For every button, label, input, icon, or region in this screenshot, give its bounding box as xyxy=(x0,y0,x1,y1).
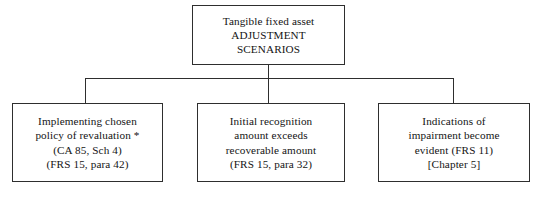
node-root-adjustment-scenarios: Tangible fixed asset ADJUSTMENT SCENARIO… xyxy=(192,5,345,65)
connector-root-stem xyxy=(268,65,269,79)
node-revaluation-line-4: (FRS 15, para 42) xyxy=(46,157,128,171)
node-root-line-2: ADJUSTMENT xyxy=(231,28,305,42)
node-implementing-chosen-policy-of-revaluation: Implementing chosen policy of revaluatio… xyxy=(12,103,163,182)
node-initial-recognition-line-4: (FRS 15, para 32) xyxy=(230,157,312,171)
connector-drop-initial-recognition xyxy=(268,78,269,103)
flowchart-diagram: Tangible fixed asset ADJUSTMENT SCENARIO… xyxy=(0,0,538,200)
node-initial-recognition-line-1: Initial recognition xyxy=(230,114,313,128)
node-revaluation-line-2: policy of revaluation * xyxy=(35,128,139,142)
node-impairment-line-2: impairment become xyxy=(408,128,499,142)
connector-drop-revaluation xyxy=(85,78,86,103)
connector-horizontal-bus xyxy=(85,78,454,79)
node-revaluation-line-1: Implementing chosen xyxy=(38,114,137,128)
node-revaluation-line-3: (CA 85, Sch 4) xyxy=(53,143,122,157)
node-initial-recognition-line-2: amount exceeds xyxy=(234,128,307,142)
node-indications-of-impairment-become-evident: Indications of impairment become evident… xyxy=(378,103,530,182)
node-impairment-line-4: [Chapter 5] xyxy=(428,157,481,171)
node-initial-recognition-line-3: recoverable amount xyxy=(226,143,317,157)
node-initial-recognition-amount-exceeds-recoverable-amount: Initial recognition amount exceeds recov… xyxy=(197,103,345,182)
node-root-line-3: SCENARIOS xyxy=(237,42,300,56)
node-root-line-1: Tangible fixed asset xyxy=(223,14,315,28)
node-impairment-line-3: evident (FRS 11) xyxy=(415,143,493,157)
connector-drop-impairment xyxy=(453,78,454,103)
node-impairment-line-1: Indications of xyxy=(422,114,485,128)
